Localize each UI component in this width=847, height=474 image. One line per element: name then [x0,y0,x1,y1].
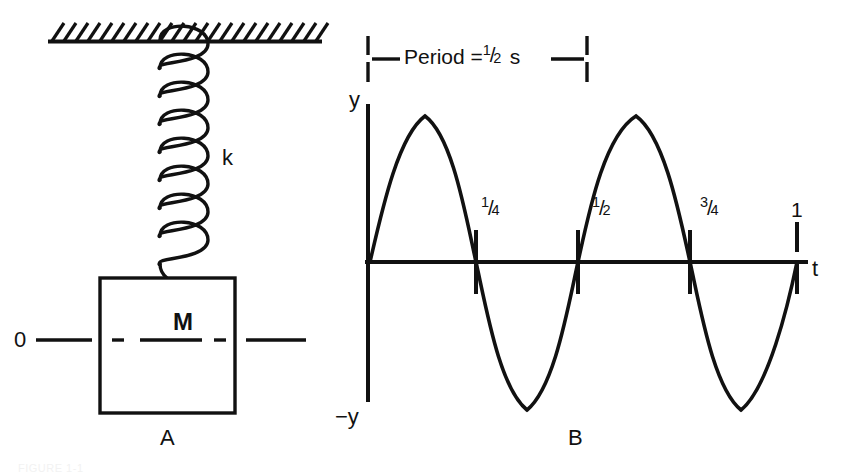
physics-figure: k M 0 A Period = 1 / 2 s y −y t 1 / 4 1 … [0,0,847,474]
tick-label-one: 1 [791,198,803,222]
period-fraction-denominator: 2 [493,51,501,66]
figure-caption-partial: FIGURE 1-1 [18,462,84,474]
graph-axes [365,104,808,402]
tick-label-three-quarters: 3 / 4 [700,196,721,220]
spring-coil [159,26,208,278]
period-annotation: Period = 1 / 2 s [404,46,520,68]
y-axis-label: y [349,89,360,111]
t-axis-label: t [812,258,818,280]
panel-b-caption: B [568,427,583,449]
period-prefix: Period = [404,45,483,68]
negative-y-axis-label: −y [335,406,359,428]
panel-a-caption: A [160,427,175,449]
mass-label: M [173,310,193,334]
equilibrium-zero-label: 0 [14,329,26,351]
tick-label-one-half: 1 / 2 [592,196,613,220]
figure-drawing [0,0,847,474]
spring-constant-label: k [222,147,233,169]
tick-label-one-quarter: 1 / 4 [481,196,502,220]
period-unit: s [510,45,521,68]
axis-tick-marks [476,222,797,294]
period-fraction: 1 / 2 [483,47,504,67]
mass-block [100,278,235,413]
